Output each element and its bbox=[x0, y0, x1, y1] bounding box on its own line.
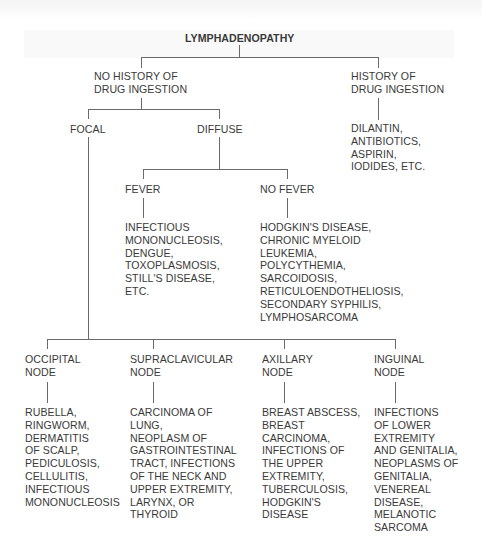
inguinal-causes-list: INFECTIONS OF LOWER EXTREMITY AND GENITA… bbox=[374, 406, 458, 534]
connector-diffuse bbox=[219, 109, 220, 119]
node-occipital: OCCIPITAL NODE bbox=[25, 353, 81, 379]
occipital-causes-list: RUBELLA, RINGWORM, DERMATITIS OF SCALP, … bbox=[25, 406, 120, 508]
connector-fever bbox=[143, 169, 144, 179]
no-fever-causes-list: HODGKIN'S DISEASE, CHRONIC MYELOID LEUKE… bbox=[260, 221, 404, 323]
node-history-drug-ingestion: HISTORY OF DRUG INGESTION bbox=[351, 70, 444, 96]
connector-no-fever-causes bbox=[287, 198, 288, 218]
connector-inguinal-causes bbox=[395, 382, 396, 403]
connector-focal-diffuse bbox=[88, 109, 220, 110]
connector-supraclavicular-causes bbox=[153, 382, 154, 403]
node-supraclavicular: SUPRACLAVICULAR NODE bbox=[130, 353, 233, 379]
connector-inguinal bbox=[395, 339, 396, 349]
connector-history-causes bbox=[378, 98, 379, 120]
axillary-causes-list: BREAST ABSCESS, BREAST CARCINOMA, INFECT… bbox=[262, 406, 360, 521]
node-fever: FEVER bbox=[125, 183, 161, 196]
connector-focal bbox=[88, 109, 89, 119]
node-focal: FOCAL bbox=[70, 123, 106, 136]
connector-root-branch bbox=[141, 57, 379, 58]
node-inguinal: INGUINAL NODE bbox=[374, 353, 424, 379]
scan-background-band bbox=[0, 0, 482, 20]
connector-node-row bbox=[47, 339, 396, 340]
supraclavicular-causes-list: CARCINOMA OF LUNG, NEOPLASM OF GASTROINT… bbox=[130, 406, 237, 521]
connector-axillary bbox=[284, 339, 285, 349]
connector-no-fever bbox=[287, 169, 288, 179]
connector-no-history-split bbox=[141, 98, 142, 109]
connector-history bbox=[378, 57, 379, 68]
diagram-title: LYMPHADENOPATHY bbox=[185, 32, 294, 45]
connector-supraclavicular bbox=[153, 339, 154, 349]
connector-diffuse-split bbox=[219, 137, 220, 169]
node-no-fever: NO FEVER bbox=[260, 183, 315, 196]
connector-fever-causes bbox=[143, 198, 144, 218]
node-no-history-drug-ingestion: NO HISTORY OF DRUG INGESTION bbox=[94, 70, 187, 96]
node-axillary: AXILLARY NODE bbox=[262, 353, 313, 379]
fever-causes-list: INFECTIOUS MONONUCLEOSIS, DENGUE, TOXOPL… bbox=[125, 221, 223, 298]
history-causes-list: DILANTIN, ANTIBIOTICS, ASPIRIN, IODIDES,… bbox=[351, 122, 425, 173]
connector-fever-nofever bbox=[143, 169, 288, 170]
connector-focal-nodes bbox=[88, 137, 89, 340]
connector-occipital bbox=[47, 339, 48, 349]
connector-occipital-causes bbox=[47, 382, 48, 403]
connector-axillary-causes bbox=[284, 382, 285, 403]
node-diffuse: DIFFUSE bbox=[197, 123, 243, 136]
connector-no-history bbox=[141, 57, 142, 68]
connector-root bbox=[239, 45, 240, 57]
